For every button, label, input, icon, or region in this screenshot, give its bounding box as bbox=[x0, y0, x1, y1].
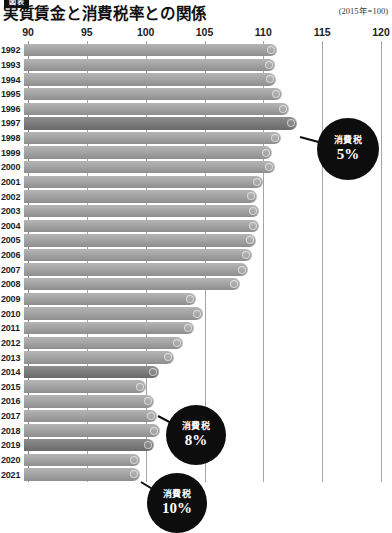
year-label: 2011 bbox=[1, 323, 20, 333]
bar-end-cap bbox=[262, 149, 270, 157]
bar bbox=[24, 249, 252, 261]
year-label: 2007 bbox=[1, 265, 20, 275]
bar-end-cap bbox=[184, 324, 192, 332]
bar-row: 1994 bbox=[0, 72, 392, 87]
bar-row: 1996 bbox=[0, 102, 392, 117]
bar-row: 2001 bbox=[0, 175, 392, 190]
year-label: 2019 bbox=[1, 440, 20, 450]
bar bbox=[24, 59, 275, 71]
bar-end-cap bbox=[265, 163, 273, 171]
bar bbox=[24, 293, 196, 305]
bar bbox=[24, 234, 256, 246]
year-label: 1996 bbox=[1, 104, 20, 114]
bar-end-cap bbox=[266, 75, 274, 83]
year-label: 2010 bbox=[1, 309, 20, 319]
bar-row: 2003 bbox=[0, 204, 392, 219]
bar-end-cap bbox=[144, 397, 152, 405]
bar-row: 1993 bbox=[0, 58, 392, 73]
bar-end-cap bbox=[149, 368, 157, 376]
year-label: 2021 bbox=[1, 470, 20, 480]
bar-row: 2004 bbox=[0, 219, 392, 234]
bar-row: 2009 bbox=[0, 292, 392, 307]
bar-end-cap bbox=[130, 470, 138, 478]
bar bbox=[24, 205, 259, 217]
year-label: 2017 bbox=[1, 411, 20, 421]
bar-end-cap bbox=[287, 119, 295, 127]
bar-end-cap bbox=[249, 207, 257, 215]
bar-end-cap bbox=[136, 383, 144, 391]
bar-end-cap bbox=[246, 236, 254, 244]
year-label: 2002 bbox=[1, 192, 20, 202]
year-label: 2009 bbox=[1, 294, 20, 304]
bar bbox=[24, 410, 157, 422]
bar-end-cap bbox=[267, 46, 275, 54]
year-label: 1995 bbox=[1, 89, 20, 99]
year-label: 2020 bbox=[1, 455, 20, 465]
bar bbox=[24, 424, 160, 436]
year-label: 2004 bbox=[1, 221, 20, 231]
bar bbox=[24, 44, 277, 56]
bar-end-cap bbox=[238, 266, 246, 274]
bar-row: 2008 bbox=[0, 277, 392, 292]
bar bbox=[24, 176, 263, 188]
bar-highlighted bbox=[24, 366, 159, 378]
bar-end-cap bbox=[193, 310, 201, 318]
bar bbox=[24, 278, 240, 290]
year-label: 2015 bbox=[1, 382, 20, 392]
bar-end-cap bbox=[249, 222, 257, 230]
bar bbox=[24, 103, 289, 115]
bar-row: 2010 bbox=[0, 306, 392, 321]
year-label: 2003 bbox=[1, 206, 20, 216]
x-tick-label: 115 bbox=[314, 26, 331, 38]
annotation-label: 消費税 bbox=[334, 135, 362, 146]
bar bbox=[24, 337, 183, 349]
bar bbox=[24, 395, 154, 407]
bar-end-cap bbox=[164, 353, 172, 361]
bar bbox=[24, 454, 140, 466]
annotation-callout-tax10: 消費税10% bbox=[147, 473, 207, 533]
bar bbox=[24, 190, 257, 202]
annotation-label: 消費税 bbox=[163, 489, 191, 500]
bar bbox=[24, 263, 248, 275]
annotation-callout-tax5: 消費税5% bbox=[317, 118, 379, 180]
year-label: 2016 bbox=[1, 396, 20, 406]
bar-end-cap bbox=[247, 192, 255, 200]
bar bbox=[24, 220, 259, 232]
x-tick-label: 105 bbox=[196, 26, 214, 38]
bar-end-cap bbox=[253, 178, 261, 186]
x-tick-label: 95 bbox=[81, 26, 93, 38]
bar bbox=[24, 322, 194, 334]
bar-end-cap bbox=[265, 61, 273, 69]
bar-row: 2014 bbox=[0, 365, 392, 380]
bar-row: 2005 bbox=[0, 233, 392, 248]
annotation-callout-tax8: 消費税8% bbox=[166, 405, 226, 465]
year-label: 2006 bbox=[1, 250, 20, 260]
bar-row: 2012 bbox=[0, 336, 392, 351]
year-label: 2013 bbox=[1, 353, 20, 363]
bar-row: 2006 bbox=[0, 248, 392, 263]
bar-end-cap bbox=[144, 441, 152, 449]
bar-end-cap bbox=[130, 456, 138, 464]
bar-end-cap bbox=[147, 412, 155, 420]
bar-end-cap bbox=[230, 280, 238, 288]
unit-note: (2015年=100) bbox=[339, 4, 388, 16]
annotation-value: 5% bbox=[337, 146, 360, 163]
bar-end-cap bbox=[271, 134, 279, 142]
annotation-label: 消費税 bbox=[182, 421, 210, 432]
bar-end-cap bbox=[173, 339, 181, 347]
bar-end-cap bbox=[150, 427, 158, 435]
page-title: 実質賃金と消費税率との関係 bbox=[3, 5, 207, 23]
x-tick-label: 110 bbox=[255, 26, 272, 38]
bar-row: 1995 bbox=[0, 87, 392, 102]
bar-highlighted bbox=[24, 439, 154, 451]
annotation-value: 10% bbox=[162, 500, 192, 517]
year-label: 2001 bbox=[1, 177, 20, 187]
x-tick-label: 120 bbox=[372, 26, 390, 38]
bar-row: 2002 bbox=[0, 189, 392, 204]
year-label: 2014 bbox=[1, 367, 20, 377]
bar bbox=[24, 146, 272, 158]
bar-row: 2013 bbox=[0, 350, 392, 365]
bar-row: 2011 bbox=[0, 321, 392, 336]
year-label: 1992 bbox=[1, 45, 20, 55]
plot-area: 9095100105110115120 19921993199419951996… bbox=[0, 26, 392, 503]
